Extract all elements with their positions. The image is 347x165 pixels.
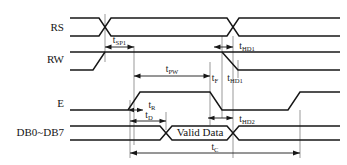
timing-label-tc: tC — [211, 142, 219, 153]
timing-label-td: tD — [145, 110, 153, 121]
dimension-tsp1: tSP1 — [105, 35, 134, 49]
timing-label-thd2: tHD2 — [239, 114, 254, 125]
waveform-e — [70, 92, 340, 110]
timing-label-thd1-upper: tHD1 — [239, 41, 254, 52]
dimension-tr: tR — [128, 100, 156, 112]
timing-label-tf: tF — [212, 73, 219, 84]
signal-label-e: E — [57, 97, 64, 109]
signal-label-rs: RS — [51, 21, 64, 33]
timing-label-tr: tR — [148, 100, 156, 111]
waveform-db: Valid Data — [70, 126, 340, 140]
signal-label-db: DB0~DB7 — [16, 126, 64, 138]
timing-diagram-canvas: RS RW E DB0~DB7 Valid Data — [0, 0, 347, 165]
valid-data-label: Valid Data — [177, 126, 224, 138]
waveform-rw — [70, 52, 340, 70]
waveform-rs — [70, 18, 340, 36]
dimension-thd1-upper: tHD1 — [214, 41, 255, 52]
timing-label-tpw: tPW — [166, 64, 179, 75]
signal-label-rw: RW — [47, 53, 65, 65]
dimension-tpw: tPW — [134, 64, 210, 78]
dimension-thd1-lower: tHD1 — [227, 73, 242, 84]
dimension-td: tD — [130, 110, 166, 123]
timing-label-thd1-lower: tHD1 — [227, 73, 242, 84]
dimension-tf: tF — [212, 73, 219, 84]
timing-diagram-root: RS RW E DB0~DB7 Valid Data — [0, 0, 347, 165]
dimension-tc: tC — [130, 142, 300, 156]
dimension-thd2: tHD2 — [208, 114, 255, 125]
